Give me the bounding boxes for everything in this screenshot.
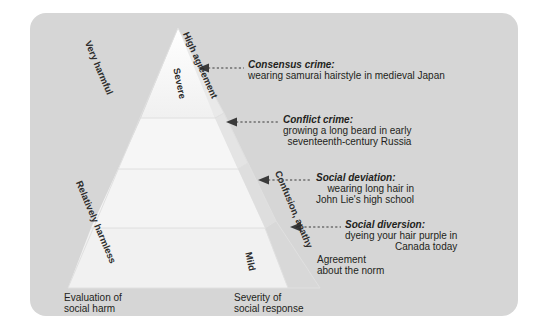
callout-title: Social diversion: xyxy=(345,219,457,230)
axis-label-line: Evaluation of xyxy=(64,292,122,303)
callout-title: Social deviation: xyxy=(316,172,414,183)
callout-line: growing a long beard in early xyxy=(283,125,411,136)
callout-consensus-crime: Consensus crime: wearing samurai hairsty… xyxy=(248,59,445,81)
callout-line: John Lie's high school xyxy=(316,194,414,205)
figure-canvas: Very harmful Relatively harmless High ag… xyxy=(0,0,546,335)
callout-conflict-crime: Conflict crime: growing a long beard in … xyxy=(283,114,411,147)
axis-label-line: social response xyxy=(234,303,303,314)
axis-label-line: Severity of xyxy=(234,292,303,303)
callout-title: Conflict crime: xyxy=(283,114,411,125)
callout-social-diversion: Social diversion: dyeing your hair purpl… xyxy=(345,219,457,252)
axis-label-severity-of-social-response: Severity of social response xyxy=(234,292,303,314)
axis-label-evaluation-of-social-harm: Evaluation of social harm xyxy=(64,292,122,314)
callout-social-deviation: Social deviation: wearing long hair in J… xyxy=(316,172,414,205)
callout-line: seventeenth-century Russia xyxy=(283,136,411,147)
callout-line: dyeing your hair purple in xyxy=(345,230,457,241)
axis-label-line: Agreement xyxy=(317,254,384,265)
axis-label-line: social harm xyxy=(64,303,122,314)
axis-label-agreement-about-the-norm: Agreement about the norm xyxy=(317,254,384,276)
pyramid-artwork xyxy=(0,0,546,335)
callout-title: Consensus crime: xyxy=(248,59,445,70)
axis-label-line: about the norm xyxy=(317,265,384,276)
callout-line: wearing long hair in xyxy=(316,183,414,194)
callout-line: wearing samurai hairstyle in medieval Ja… xyxy=(248,70,445,81)
callout-line: Canada today xyxy=(345,241,457,252)
